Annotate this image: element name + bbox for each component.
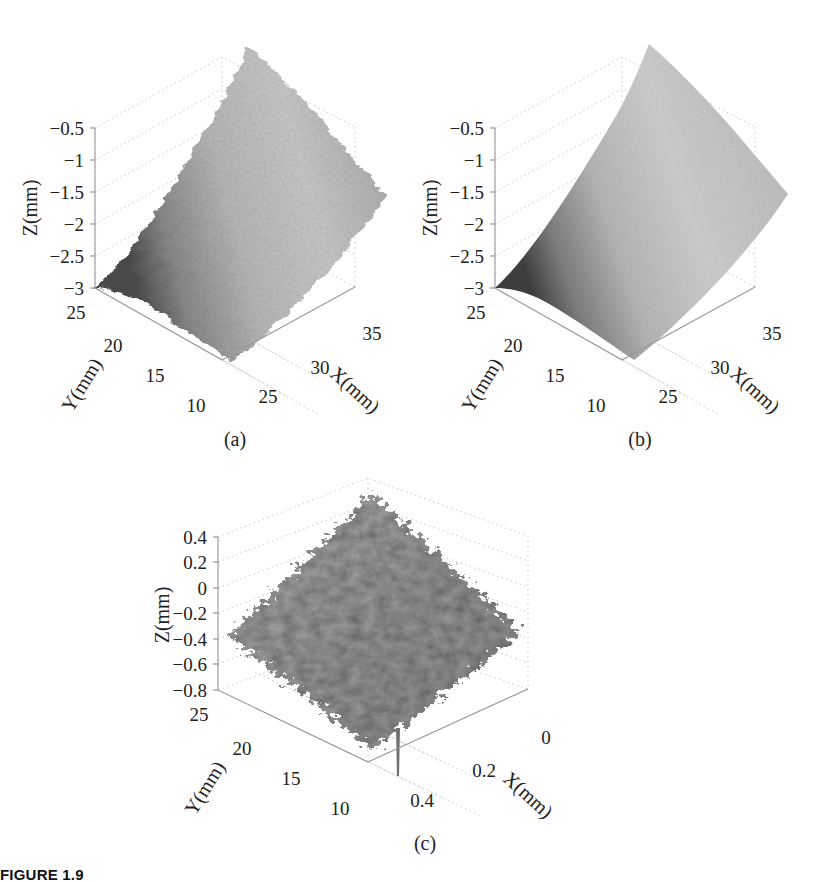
panel-a-ztick: −0.5 [50,119,84,138]
panel-c-ztick: −0.2 [173,604,207,623]
panel-b-ztick: −2 [464,215,484,234]
panel-c-ytick: 25 [190,705,209,724]
panel-b: −0.5 −1 −1.5 −2 −2.5 −3 25 20 15 10 25 3… [406,0,813,460]
panel-b-ytick: 25 [467,303,486,322]
panel-c-ztick: −0.4 [173,630,207,649]
panel-c-ztick: 0 [198,579,208,598]
panel-c-ytick: 20 [233,739,252,758]
panel-a: −0.5 −1 −1.5 −2 −2.5 −3 25 20 15 10 25 3… [0,0,406,460]
panel-c-xtick: 0 [541,728,551,747]
panel-a-z-axis-title: Z(mm) [19,180,42,237]
panel-c-xtick: 0.2 [472,761,496,780]
panel-b-ztick: −1 [464,151,484,170]
panel-a-ztick: −1 [64,151,84,170]
panel-a-xtick: 30 [311,358,330,377]
panel-b-xtick: 35 [763,324,782,343]
panel-c-ytick: 10 [331,799,350,818]
panel-b-z-axis-title: Z(mm) [419,180,442,237]
panel-b-ztick: −2.5 [450,247,484,266]
panel-c-xtick: 0.4 [410,791,434,810]
panel-a-ztick: −1.5 [50,183,84,202]
panel-label-a: (a) [224,428,246,451]
panel-b-ztick: −0.5 [450,119,484,138]
panel-b-xtick: 25 [659,387,678,406]
panel-b-ztick: −3 [464,279,484,298]
panel-c-z-axis-title: Z(mm) [151,587,174,644]
panel-a-ytick: 15 [146,366,165,385]
panel-a-ztick: −2.5 [50,247,84,266]
panel-b-ztick: −1.5 [450,183,484,202]
panel-c: 0.4 0.2 0 −0.2 −0.4 −0.6 −0.8 25 20 15 1… [150,460,670,860]
panel-a-ztick: −3 [64,279,84,298]
panel-b-ytick: 15 [546,366,565,385]
panel-b-xtick: 30 [711,358,730,377]
panel-a-xtick: 35 [363,324,382,343]
panel-a-ytick: 10 [187,396,206,415]
panel-b-ytick: 20 [504,336,523,355]
panel-c-ytick: 15 [282,769,301,788]
panel-c-ztick: −0.8 [173,681,207,700]
panel-a-ytick: 25 [67,303,86,322]
panel-a-xtick: 25 [259,387,278,406]
surface-residual-roughness [228,494,522,776]
surface-rough-measured [95,46,386,362]
panel-a-ytick: 20 [104,336,123,355]
panel-c-ztick: 0.2 [183,553,207,572]
panel-c-ztick: 0.4 [183,528,207,547]
residual-spike [396,728,400,776]
panel-label-c: (c) [414,832,436,855]
figure-caption: FIGURE 1.9 [0,866,84,882]
panel-label-b: (b) [628,428,651,451]
panel-a-ztick: −2 [64,215,84,234]
panel-c-ztick: −0.6 [173,655,207,674]
panel-b-ytick: 10 [587,396,606,415]
